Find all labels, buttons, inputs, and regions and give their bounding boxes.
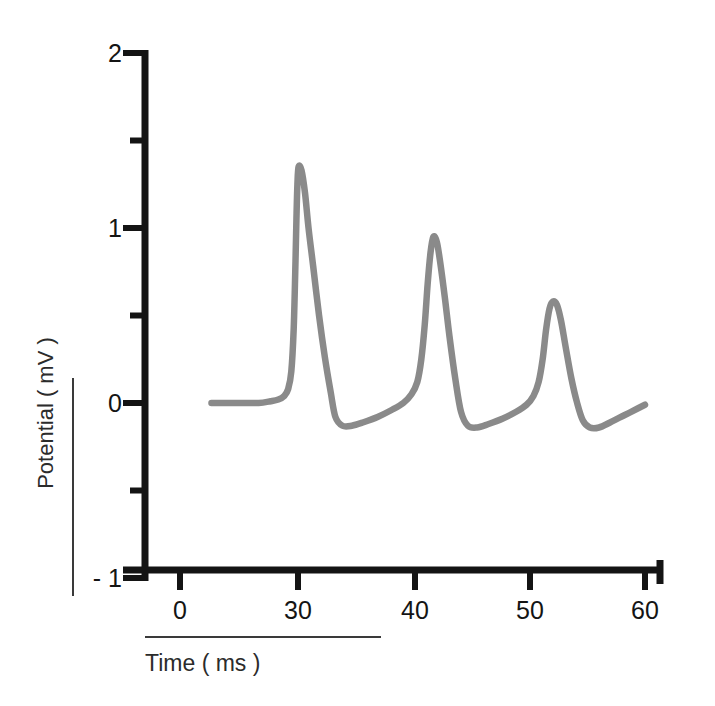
x-tick-label: 50 (516, 598, 544, 623)
potential-trace (211, 166, 645, 429)
x-axis-title-block: Time ( ms ) (145, 636, 385, 696)
y-tick-label: 0 (78, 391, 122, 416)
y-tick-label: 2 (78, 41, 122, 66)
x-tick-label: 0 (173, 598, 187, 623)
x-tick-label: 30 (284, 598, 312, 623)
x-axis-title: Time ( ms ) (145, 650, 260, 677)
data-trace-group (211, 166, 645, 429)
x-tick-label: 60 (631, 598, 659, 623)
y-tick-label: - 1 (78, 566, 122, 591)
y-axis-title: Potential ( mV ) (33, 313, 59, 513)
chart-figure: 210- 1 030405060 Potential ( mV ) Time (… (0, 0, 715, 706)
axes-group (123, 50, 660, 590)
x-tick-label: 40 (401, 598, 429, 623)
x-axis-title-rule (145, 636, 381, 638)
y-axis-title-block: Potential ( mV ) (14, 300, 74, 530)
y-axis-title-rule (72, 378, 74, 596)
y-tick-label: 1 (78, 216, 122, 241)
plot-canvas (0, 0, 715, 706)
